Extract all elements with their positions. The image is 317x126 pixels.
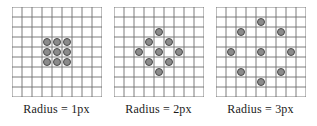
- mask-dot: [63, 48, 71, 56]
- mask-dot: [165, 38, 173, 46]
- grid-radius-2: [114, 7, 204, 97]
- mask-dot: [145, 38, 153, 46]
- mask-dot: [257, 48, 265, 56]
- mask-dot: [175, 48, 183, 56]
- mask-dot: [43, 38, 51, 46]
- mask-dot: [53, 38, 61, 46]
- mask-dot: [257, 18, 265, 26]
- panel-radius-1: Radius = 1px: [11, 7, 102, 117]
- mask-dot: [277, 28, 285, 36]
- caption-radius-1: Radius = 1px: [23, 102, 90, 117]
- mask-dot: [63, 38, 71, 46]
- dots-layer-1: [12, 7, 102, 97]
- mask-dot: [237, 68, 245, 76]
- mask-dot: [145, 58, 153, 66]
- mask-dot: [155, 68, 163, 76]
- mask-dot: [135, 48, 143, 56]
- grid-radius-3: [216, 7, 306, 97]
- mask-dot: [227, 48, 235, 56]
- dots-layer-3: [216, 7, 306, 97]
- mask-dot: [165, 58, 173, 66]
- mask-dot: [43, 48, 51, 56]
- radius-masks-figure: Radius = 1px Radius = 2px Radius = 3px: [0, 0, 317, 126]
- caption-radius-3: Radius = 3px: [227, 102, 294, 117]
- dots-layer-2: [114, 7, 204, 97]
- mask-dot: [237, 28, 245, 36]
- panel-radius-3: Radius = 3px: [215, 7, 306, 117]
- mask-dot: [277, 68, 285, 76]
- mask-dot: [155, 48, 163, 56]
- mask-dot: [155, 28, 163, 36]
- mask-dot: [63, 58, 71, 66]
- mask-dot: [257, 78, 265, 86]
- panel-radius-2: Radius = 2px: [113, 7, 204, 117]
- mask-dot: [53, 58, 61, 66]
- caption-radius-2: Radius = 2px: [125, 102, 192, 117]
- mask-dot: [43, 58, 51, 66]
- mask-dot: [287, 48, 295, 56]
- mask-dot: [53, 48, 61, 56]
- grid-radius-1: [12, 7, 102, 97]
